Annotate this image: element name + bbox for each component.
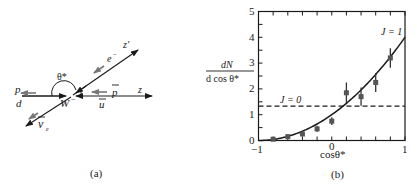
label-pbar: p [111,86,118,98]
nubar-momentum-arrow-icon [29,113,38,119]
y-axis-label-denominator: d cos θ* [206,73,239,84]
y-tick-labels: 0 1 2 3 4 5 [249,5,255,146]
data-point [329,117,334,125]
angular-distribution-chart: 0 1 2 3 4 5 −1 0 1 cosθ* dN d cos θ* J =… [206,5,408,181]
label-ubar: u [99,98,105,110]
theta-angle-arc-icon [52,81,76,96]
svg-text:1: 1 [402,143,408,155]
label-nubar: ν [38,117,44,131]
data-point [388,48,393,68]
data-point [300,132,305,137]
label-electron-charge: − [113,51,117,59]
label-d: d [16,97,22,109]
j0-label: J = 0 [280,94,301,105]
electron-momentum-arrow-icon [94,66,104,73]
caption-a: (a) [90,167,103,180]
svg-text:2: 2 [249,82,255,94]
label-z: z [137,84,142,95]
data-point [344,82,349,103]
svg-text:3: 3 [249,56,255,68]
label-W-charge: − [71,95,76,104]
j1-label: J = 1 [381,26,402,37]
label-p: p [14,83,21,95]
y-axis-label-numerator: dN [221,59,234,70]
feynman-kinematics-diagram: p d W − p u z z' e − ν e θ* (a) [14,39,152,180]
figure: p d W − p u z z' e − ν e θ* (a) 0 1 2 3 … [0,0,417,190]
data-point [359,88,364,106]
data-point [315,126,320,132]
svg-text:1: 1 [249,108,255,120]
small-angle-arc-icon [80,90,81,96]
svg-text:5: 5 [249,5,255,17]
label-electron: e [107,53,112,64]
label-theta-star: θ* [57,71,67,82]
caption-b: (b) [331,168,344,181]
label-nubar-sub: e [46,126,49,132]
label-zprime: z' [122,39,130,50]
svg-text:−1: −1 [251,143,263,155]
x-axis-label: cosθ* [320,148,345,160]
data-point [271,137,276,142]
label-W: W [60,97,70,109]
data-point [285,134,290,139]
svg-text:4: 4 [249,31,255,43]
